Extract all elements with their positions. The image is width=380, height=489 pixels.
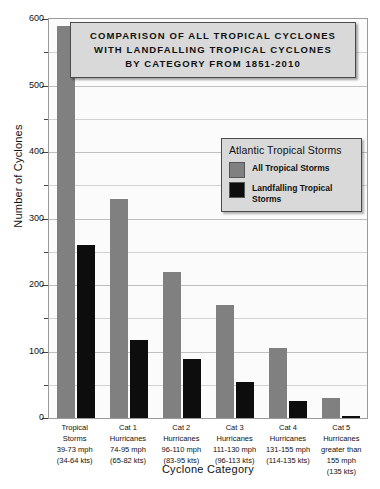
x-axis-category-label: Cat 1Hurricanes74-95 mph(65-82 kts)	[101, 423, 154, 467]
bar-landfalling-tropical-storms	[289, 401, 307, 418]
bar-landfalling-tropical-storms	[342, 416, 360, 418]
x-axis-title: Cyclone Category	[48, 463, 368, 475]
x-axis-category-label: Cat 4Hurricanes131-155 mph(114-135 kts)	[261, 423, 314, 467]
legend-item-landfalling-tropical-storms: Landfalling Tropical Storms	[229, 182, 355, 204]
x-axis-category-label: Cat 2Hurricanes96-110 mph(83-95 kts)	[155, 423, 208, 467]
legend: Atlantic Tropical Storms All Tropical St…	[221, 138, 362, 212]
legend-item-all-tropical-storms: All Tropical Storms	[229, 162, 355, 178]
legend-label-all-tropical-storms: All Tropical Storms	[252, 162, 329, 174]
bars-layer	[49, 19, 367, 418]
bar-group	[155, 19, 208, 418]
x-axis-category-label-line: 96-110 mph	[155, 445, 208, 456]
bar-group	[102, 19, 155, 418]
bar-all-tropical-storms	[110, 199, 128, 418]
bar-group	[261, 19, 314, 418]
bar-all-tropical-storms	[57, 26, 75, 418]
bar-all-tropical-storms	[269, 348, 287, 418]
x-axis-category-label-line: 131-155 mph	[261, 445, 314, 456]
x-axis-category-label: TropicalStorms39-73 mph(34-64 kts)	[48, 423, 101, 467]
legend-swatch-landfalling-tropical-storms	[229, 182, 245, 198]
chart-title-line: COMPARISON OF ALL TROPICAL CYCLONES	[75, 29, 351, 43]
x-axis-category-label: Cat 3Hurricanes111-130 mph(96-113 kts)	[208, 423, 261, 467]
x-axis-category-label-line: greater than	[315, 445, 368, 456]
x-axis-category-label-line: Hurricanes	[315, 434, 368, 445]
legend-label-landfalling-tropical-storms: Landfalling Tropical Storms	[252, 182, 355, 204]
chart-title-line: WITH LANDFALLING TROPICAL CYCLONES	[75, 43, 351, 57]
legend-label-line: Landfalling	[252, 183, 297, 193]
bar-all-tropical-storms	[322, 398, 340, 418]
y-tick-label: 200	[10, 280, 44, 289]
x-axis-category-label-line: Cat 2	[155, 423, 208, 434]
bar-all-tropical-storms	[216, 305, 234, 418]
chart-title: COMPARISON OF ALL TROPICAL CYCLONESWITH …	[70, 22, 356, 78]
chart-title-line: BY CATEGORY FROM 1851-2010	[75, 57, 351, 71]
y-tick-label: 600	[10, 14, 44, 23]
x-axis-category-label-line: Cat 3	[208, 423, 261, 434]
y-axis-title: Number of Cyclones	[12, 96, 24, 256]
x-axis-category-label-line: Tropical	[48, 423, 101, 434]
y-tick-label: 500	[10, 81, 44, 90]
bar-all-tropical-storms	[163, 272, 181, 418]
x-axis-category-label-line: Cat 5	[315, 423, 368, 434]
bar-landfalling-tropical-storms	[77, 245, 95, 418]
legend-swatch-all-tropical-storms	[229, 162, 245, 178]
y-tick-label: 300	[10, 214, 44, 223]
x-axis-category-label-line: Hurricanes	[261, 434, 314, 445]
x-axis-category-label-line: 111-130 mph	[208, 445, 261, 456]
bar-group	[314, 19, 367, 418]
legend-title: Atlantic Tropical Storms	[229, 144, 355, 156]
x-axis-category-label-line: Hurricanes	[208, 434, 261, 445]
x-axis-category-label-line: Hurricanes	[155, 434, 208, 445]
bar-group	[208, 19, 261, 418]
x-axis-category-label-line: 39-73 mph	[48, 445, 101, 456]
x-axis-category-label-line: Storms	[48, 434, 101, 445]
y-tick-label: 400	[10, 147, 44, 156]
y-tick-label: 100	[10, 347, 44, 356]
x-axis-category-label-line: Cat 4	[261, 423, 314, 434]
x-axis-category-label-line: Hurricanes	[101, 434, 154, 445]
bar-landfalling-tropical-storms	[183, 359, 201, 418]
cyclone-bar-chart: Number of Cyclones 0100200300400500600 C…	[0, 0, 380, 489]
y-tick-label: 0	[10, 413, 44, 422]
bar-landfalling-tropical-storms	[236, 382, 254, 418]
x-axis-category-label-line: 74-95 mph	[101, 445, 154, 456]
bar-group	[49, 19, 102, 418]
bar-landfalling-tropical-storms	[130, 340, 148, 418]
x-axis-category-label-line: Cat 1	[101, 423, 154, 434]
